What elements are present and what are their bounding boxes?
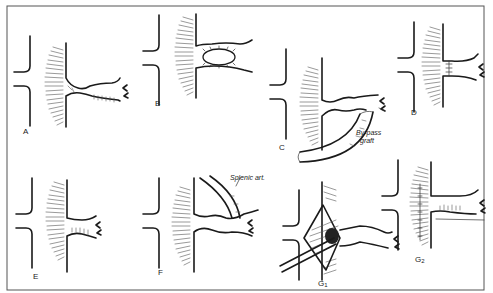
panel-e: E (16, 178, 101, 281)
panel-label-g2: G2 (415, 255, 425, 264)
splenic-artery-annotation: Splenic art. (230, 174, 265, 182)
panel-label-e: E (33, 272, 38, 281)
panel-g2: G2 (382, 160, 485, 264)
panel-label-b: B (155, 99, 160, 108)
patch-graft (203, 49, 235, 65)
bypass-graft-annotation-line1: By-pass (356, 129, 382, 137)
panel-g1: G1 (280, 182, 399, 288)
panel-a: A (14, 36, 128, 136)
bypass-graft-annotation-line2: graft (360, 137, 375, 145)
panel-b: B (143, 14, 252, 108)
panel-label-f: F (158, 268, 163, 277)
figure-border (7, 6, 484, 290)
panel-label-c: C (279, 143, 285, 152)
panel-label-a: A (23, 127, 29, 136)
panel-f: Splenic art. F (143, 174, 265, 277)
surgical-diagram-figure: A B By-pass graft C D (0, 0, 493, 293)
panel-d: D (398, 22, 484, 117)
panel-label-g1: G1 (318, 279, 328, 288)
panel-c: By-pass graft C (270, 49, 385, 162)
panel-label-d: D (411, 108, 417, 117)
